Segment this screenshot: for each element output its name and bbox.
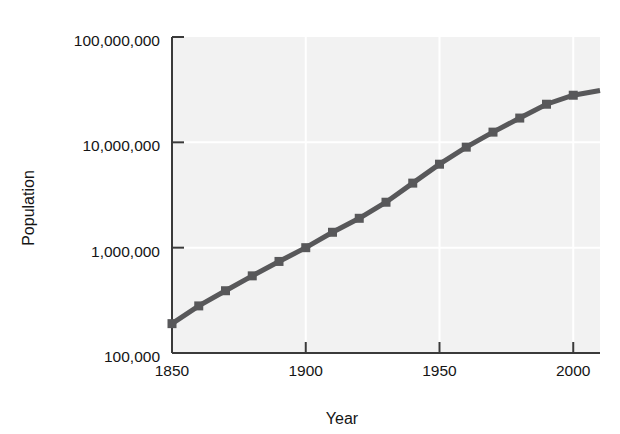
y-tick-label: 10,000,000 bbox=[82, 137, 160, 154]
y-axis-title: Population bbox=[20, 170, 37, 246]
data-point-marker bbox=[194, 301, 203, 310]
population-log-chart: 100,0001,000,00010,000,000100,000,000 18… bbox=[0, 0, 620, 434]
x-tick-label: 1900 bbox=[289, 362, 324, 379]
data-point-marker bbox=[542, 100, 551, 109]
data-point-marker bbox=[382, 198, 391, 207]
data-point-marker bbox=[275, 257, 284, 266]
x-axis-title: Year bbox=[326, 410, 359, 427]
data-point-marker bbox=[301, 243, 310, 252]
y-tick-label: 1,000,000 bbox=[91, 243, 160, 260]
data-point-marker bbox=[408, 179, 417, 188]
data-point-marker bbox=[515, 114, 524, 123]
plot-area-background bbox=[172, 37, 600, 353]
data-point-marker bbox=[355, 214, 364, 223]
data-point-marker bbox=[328, 228, 337, 237]
data-point-marker bbox=[462, 143, 471, 152]
x-tick-label: 1950 bbox=[422, 362, 457, 379]
data-point-marker bbox=[569, 91, 578, 100]
y-tick-label: 100,000,000 bbox=[74, 32, 161, 49]
data-point-marker bbox=[168, 319, 177, 328]
y-tick-label: 100,000 bbox=[104, 348, 160, 365]
data-point-marker bbox=[248, 271, 257, 280]
data-point-marker bbox=[221, 286, 230, 295]
data-point-marker bbox=[489, 128, 498, 137]
chart-svg: 100,0001,000,00010,000,000100,000,000 18… bbox=[0, 0, 620, 434]
x-tick-label: 1850 bbox=[155, 362, 190, 379]
data-point-marker bbox=[435, 160, 444, 169]
x-tick-label: 2000 bbox=[556, 362, 591, 379]
